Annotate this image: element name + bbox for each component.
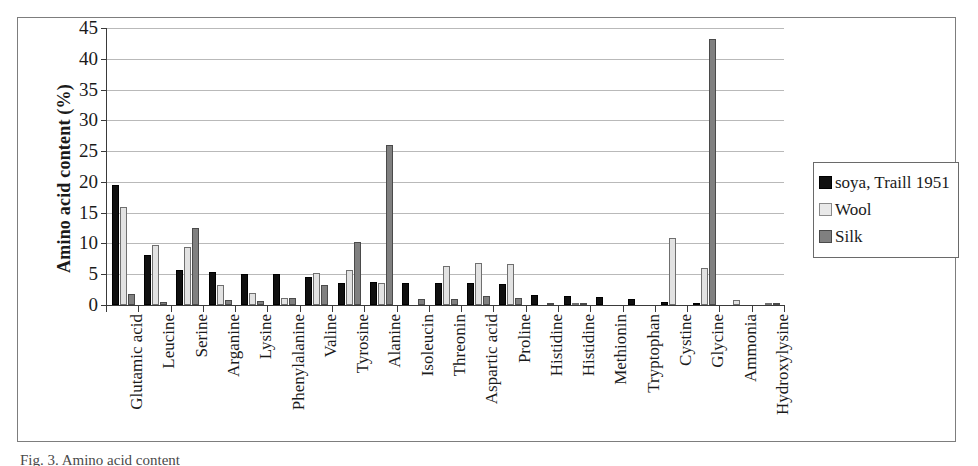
x-axis-label: Ammonia [742,314,759,382]
bar [321,285,328,305]
x-tick-mark [784,305,785,312]
bar [475,263,482,305]
bar-group [434,28,459,305]
x-tick-mark [752,305,753,312]
x-tick-mark [364,305,365,312]
bar [289,298,296,305]
x-axis-label: Threonin [451,314,468,376]
bar [435,283,442,305]
bar-group [401,28,426,305]
x-axis-label: Arganine [225,314,242,377]
x-axis-label: Hydroxylysine [774,314,791,415]
x-axis-label: Alanine [386,314,403,368]
bar [515,298,522,305]
bar-group [337,28,362,305]
bar [176,270,183,305]
bar [217,285,224,305]
bar [338,283,345,305]
x-axis-label: Glutamic acid [128,314,145,410]
bar-group [466,28,491,305]
bar-group [498,28,523,305]
bar [483,296,490,305]
x-tick-mark [138,305,139,312]
bar [305,277,312,305]
bar-group [272,28,297,305]
x-tick-mark [493,305,494,312]
bars-layer [107,28,784,305]
y-tick-label: 30 [79,109,98,131]
y-tick-label: 20 [79,171,98,193]
bar [596,297,603,305]
legend-item: soya, Traill 1951 [819,169,953,196]
bar-group [208,28,233,305]
x-tick-mark [558,305,559,312]
chart-legend: soya, Traill 1951WoolSilk [813,162,959,258]
mid-gray-square-icon [819,230,832,243]
bar [354,242,361,305]
x-axis-label: Histidine [548,314,565,376]
y-tick-label: 10 [79,232,98,254]
bar-group [692,28,717,305]
bar [669,238,676,305]
bar-group [369,28,394,305]
plot-area: 051015202530354045 [106,28,784,305]
x-axis-labels: Glutamic acidLeucineSerineArganineLysine… [106,314,784,464]
x-axis-label: Serine [193,314,210,357]
x-axis-label: Lysine [257,314,274,359]
y-tick-label: 15 [79,202,98,224]
bar [313,273,320,305]
x-axis-label: Isoleucin [419,314,436,376]
bar [709,39,716,305]
bar-group [530,28,555,305]
bar [128,294,135,305]
y-tick-label: 35 [79,79,98,101]
black-square-icon [819,176,832,189]
x-tick-mark [687,305,688,312]
bar [467,283,474,305]
x-tick-mark [655,305,656,312]
bar-group [660,28,685,305]
x-tick-mark [719,305,720,312]
x-axis-label: Leucine [160,314,177,369]
x-axis-label: Phenylalanine [290,314,307,410]
y-tick-label: 45 [79,17,98,39]
bar [499,284,506,305]
bar-group [111,28,136,305]
x-axis-ticks [106,305,784,313]
bar-group [304,28,329,305]
x-axis-label: Histidine [580,314,597,376]
x-axis-label: Cystine [677,314,694,366]
legend-label: Silk [835,227,862,247]
x-tick-mark [106,305,107,312]
y-tick-label: 25 [79,140,98,162]
x-tick-mark [203,305,204,312]
bar [192,228,199,305]
y-tick-label: 40 [79,48,98,70]
bar [112,185,119,305]
x-axis-label: Tryptophan [645,314,662,393]
bar-group [724,28,749,305]
x-axis-label: Proline [516,314,533,363]
light-gray-square-icon [819,203,832,216]
bar-group [175,28,200,305]
bar [241,274,248,305]
y-axis-title: Amino acid content (%) [54,49,75,309]
x-tick-mark [267,305,268,312]
figure-caption: Fig. 3. Amino acid content [20,452,180,466]
bar [531,295,538,305]
x-axis-label: Methionin [612,314,629,385]
bar [443,266,450,305]
bar [273,274,280,305]
legend-label: Wool [835,200,871,220]
y-tick-label: 0 [89,294,99,316]
x-tick-mark [623,305,624,312]
x-tick-mark [300,305,301,312]
bar [281,298,288,305]
y-tick-label: 5 [89,263,99,285]
x-tick-mark [590,305,591,312]
x-axis-label: Aspartic acid [483,314,500,404]
bar [144,255,151,305]
x-tick-mark [397,305,398,312]
legend-item: Silk [819,223,953,250]
bar-group [563,28,588,305]
